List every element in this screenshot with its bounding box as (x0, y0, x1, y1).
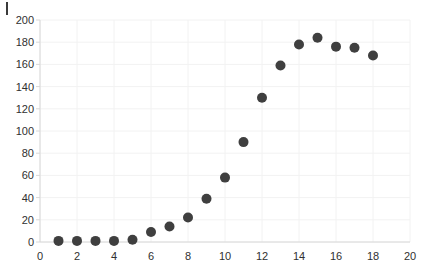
y-tick-label: 140 (16, 81, 34, 93)
y-tick-label: 160 (16, 58, 34, 70)
x-tick-label: 4 (111, 250, 117, 262)
data-point (109, 236, 119, 246)
x-tick-label: 18 (367, 250, 379, 262)
data-point (183, 213, 193, 223)
data-point (276, 61, 286, 71)
y-tick-label: 120 (16, 103, 34, 115)
chart-background (0, 0, 438, 274)
x-tick-label: 14 (293, 250, 305, 262)
x-tick-label: 10 (219, 250, 231, 262)
x-tick-label: 16 (330, 250, 342, 262)
cursor-mark-icon (6, 2, 8, 15)
data-point (331, 42, 341, 52)
y-tick-label: 0 (28, 236, 34, 248)
data-point (313, 33, 323, 43)
data-point (128, 235, 138, 245)
y-tick-label: 80 (22, 147, 34, 159)
data-point (146, 227, 156, 237)
y-tick-label: 60 (22, 169, 34, 181)
x-tick-label: 8 (185, 250, 191, 262)
y-tick-label: 40 (22, 192, 34, 204)
data-point (54, 236, 64, 246)
y-tick-label: 180 (16, 36, 34, 48)
x-tick-label: 0 (37, 250, 43, 262)
y-tick-label: 100 (16, 125, 34, 137)
x-tick-label: 6 (148, 250, 154, 262)
data-point (91, 236, 101, 246)
data-point (202, 194, 212, 204)
data-point (72, 236, 82, 246)
data-point (368, 51, 378, 61)
y-tick-label: 200 (16, 14, 34, 26)
x-tick-label: 2 (74, 250, 80, 262)
x-tick-label: 20 (404, 250, 416, 262)
x-tick-label: 12 (256, 250, 268, 262)
data-point (239, 137, 249, 147)
data-point (165, 221, 175, 231)
data-point (257, 93, 267, 103)
scatter-chart: 0204060801001201401601802000246810121416… (0, 0, 438, 274)
data-point (350, 43, 360, 53)
data-point (220, 173, 230, 183)
y-tick-label: 20 (22, 214, 34, 226)
data-point (294, 39, 304, 49)
plot-canvas: 0204060801001201401601802000246810121416… (0, 0, 438, 274)
